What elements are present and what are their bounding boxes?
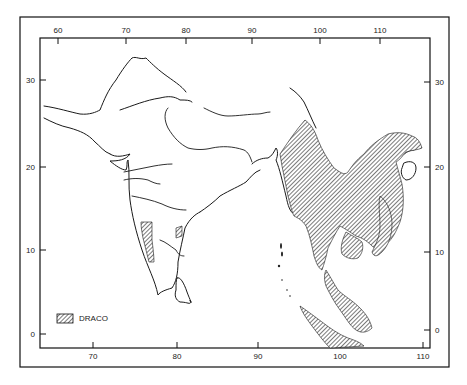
tick-label: 10 (435, 248, 444, 257)
legend-label-draco: DRACO (79, 314, 108, 323)
tick-label: 70 (89, 352, 98, 361)
tick-label: 70 (122, 26, 131, 35)
northern-border (44, 57, 186, 114)
tick-label: 110 (417, 352, 430, 361)
right-latitude-axis: 30 20 10 0 (424, 78, 444, 335)
hainan-island (401, 162, 416, 180)
brahmaputra-river (204, 108, 270, 116)
legend-swatch-hatch (57, 314, 73, 323)
ganges-river (165, 108, 252, 162)
tick-label: 0 (31, 330, 36, 339)
tick-label: 0 (435, 326, 440, 335)
eastern-ghats-fragment (176, 226, 182, 238)
distribution-map: 60 70 80 90 100 110 70 80 90 100 110 30 … (0, 0, 467, 385)
narmada-river (124, 164, 172, 172)
western-ghats-range (141, 222, 154, 262)
indus-line (120, 97, 192, 110)
draco-ranges (141, 120, 422, 348)
tick-label: 100 (333, 352, 347, 361)
tick-label: 60 (54, 26, 63, 35)
tick-label: 20 (26, 163, 35, 172)
top-longitude-axis: 60 70 80 90 100 110 (54, 26, 387, 44)
tick-label: 80 (182, 26, 191, 35)
left-latitude-axis: 30 20 10 0 (26, 76, 46, 339)
malay-peninsula-range (325, 270, 373, 332)
tick-label: 10 (26, 246, 35, 255)
india-east-coast (200, 170, 260, 212)
tick-label: 30 (26, 76, 35, 85)
tick-label: 110 (374, 26, 387, 35)
india-west-coast (110, 154, 200, 295)
godavari-river (132, 196, 186, 210)
tick-label: 90 (254, 352, 263, 361)
tick-label: 90 (248, 26, 257, 35)
bottom-longitude-axis: 70 80 90 100 110 (89, 342, 430, 361)
tick-label: 20 (435, 163, 444, 172)
tick-label: 80 (173, 352, 182, 361)
sri-lanka (175, 278, 191, 304)
arabian-sea-coast-west (44, 118, 110, 154)
legend: DRACO (57, 314, 108, 323)
tick-label: 30 (435, 78, 444, 87)
tick-label: 100 (313, 26, 327, 35)
andaman-nicobar-islands (278, 243, 291, 297)
